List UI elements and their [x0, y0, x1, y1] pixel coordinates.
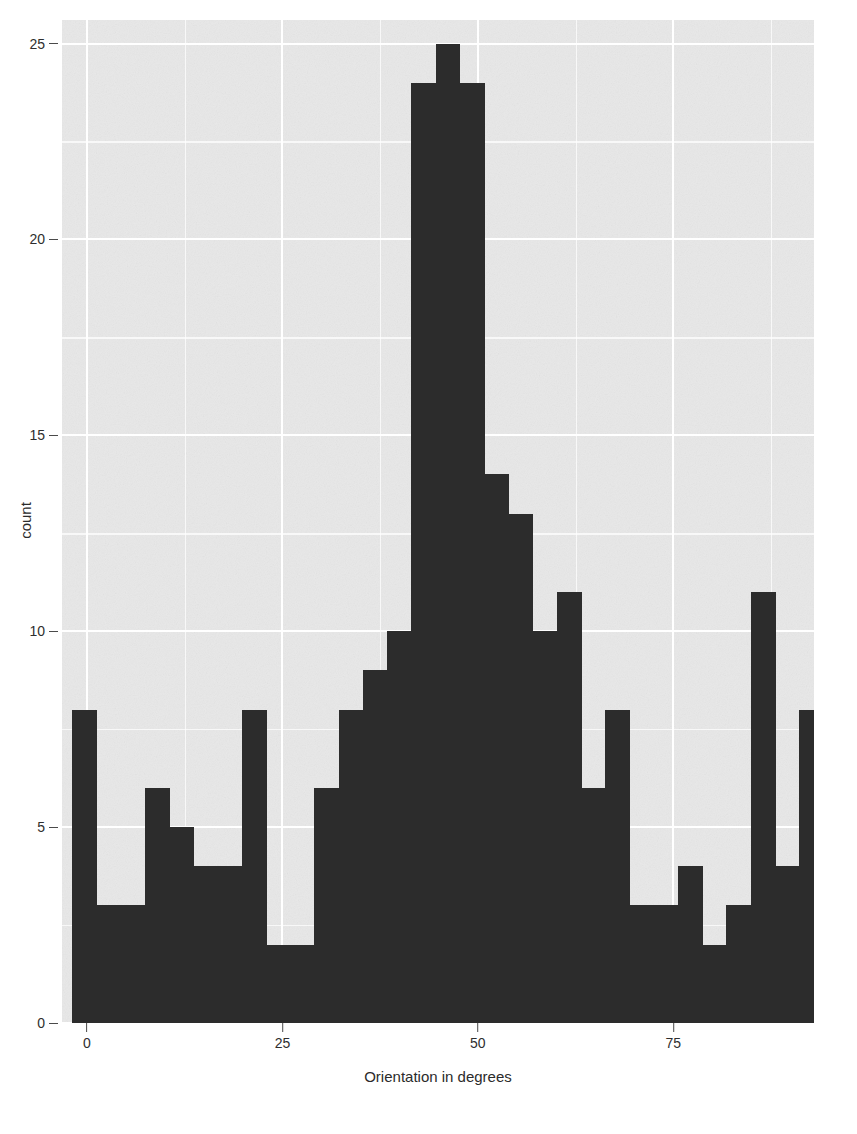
- y-tick-label: 5: [37, 819, 58, 835]
- x-tick-label: 0: [83, 1023, 91, 1051]
- y-tick-mark: [49, 631, 58, 632]
- histogram-bar: [678, 866, 703, 1023]
- x-tick-mark: [282, 1023, 283, 1032]
- histogram-bar: [218, 866, 243, 1023]
- histogram-bar: [460, 83, 485, 1023]
- y-tick-text: 10: [29, 623, 45, 639]
- histogram-bar: [533, 631, 558, 1023]
- gridline-vertical-major: [281, 20, 283, 1023]
- y-tick-text: 20: [29, 231, 45, 247]
- x-axis-title: Orientation in degrees: [62, 1068, 814, 1085]
- histogram-bar: [96, 905, 121, 1023]
- histogram-bar: [314, 788, 339, 1023]
- y-tick-label: 20: [29, 231, 58, 247]
- y-tick-mark: [49, 435, 58, 436]
- x-axis-ticks: 0255075: [62, 1023, 814, 1063]
- histogram-bar: [605, 710, 630, 1023]
- histogram-bar: [799, 710, 814, 1023]
- histogram-bar: [581, 788, 606, 1023]
- y-tick-label: 10: [29, 623, 58, 639]
- histogram-bar: [193, 866, 218, 1023]
- x-tick-text: 25: [275, 1035, 291, 1051]
- x-tick-text: 75: [665, 1035, 681, 1051]
- histogram-bar: [484, 474, 509, 1023]
- histogram-bar: [121, 905, 146, 1023]
- histogram-bar: [508, 514, 533, 1023]
- histogram-bar: [363, 670, 388, 1023]
- x-tick-label: 75: [665, 1023, 681, 1051]
- histogram-bar: [630, 905, 655, 1023]
- y-tick-text: 0: [37, 1015, 45, 1031]
- histogram-bar: [387, 631, 412, 1023]
- y-tick-label: 25: [29, 36, 58, 52]
- histogram-bar: [557, 592, 582, 1023]
- histogram-bar: [775, 866, 800, 1023]
- y-tick-mark: [49, 827, 58, 828]
- x-tick-label: 50: [470, 1023, 486, 1051]
- histogram-bar: [145, 788, 170, 1023]
- histogram-bar: [169, 827, 194, 1023]
- x-tick-mark: [673, 1023, 674, 1032]
- plot-panel: [62, 20, 814, 1023]
- histogram-bar: [290, 945, 315, 1023]
- x-tick-text: 50: [470, 1035, 486, 1051]
- x-tick-text: 0: [83, 1035, 91, 1051]
- y-tick-mark: [49, 239, 58, 240]
- y-tick-text: 15: [29, 427, 45, 443]
- histogram-bar: [702, 945, 727, 1023]
- histogram-bar: [411, 83, 436, 1023]
- x-tick-label: 25: [275, 1023, 291, 1051]
- y-tick-mark: [49, 1023, 58, 1024]
- y-axis-ticks: 0510152025: [0, 0, 58, 1134]
- y-tick-text: 25: [29, 36, 45, 52]
- histogram-bar: [436, 44, 461, 1023]
- histogram-bar: [339, 710, 364, 1023]
- gridline-vertical-major: [672, 20, 674, 1023]
- histogram-chart: count 0510152025 0255075 Orientation in …: [0, 0, 857, 1134]
- histogram-bar: [751, 592, 776, 1023]
- x-tick-mark: [86, 1023, 87, 1032]
- histogram-bar: [72, 710, 97, 1023]
- y-tick-label: 0: [37, 1015, 58, 1031]
- histogram-bar: [726, 905, 751, 1023]
- histogram-bar: [654, 905, 679, 1023]
- y-tick-mark: [49, 43, 58, 44]
- histogram-bar: [266, 945, 291, 1023]
- x-tick-mark: [477, 1023, 478, 1032]
- y-tick-text: 5: [37, 819, 45, 835]
- y-tick-label: 15: [29, 427, 58, 443]
- histogram-bar: [242, 710, 267, 1023]
